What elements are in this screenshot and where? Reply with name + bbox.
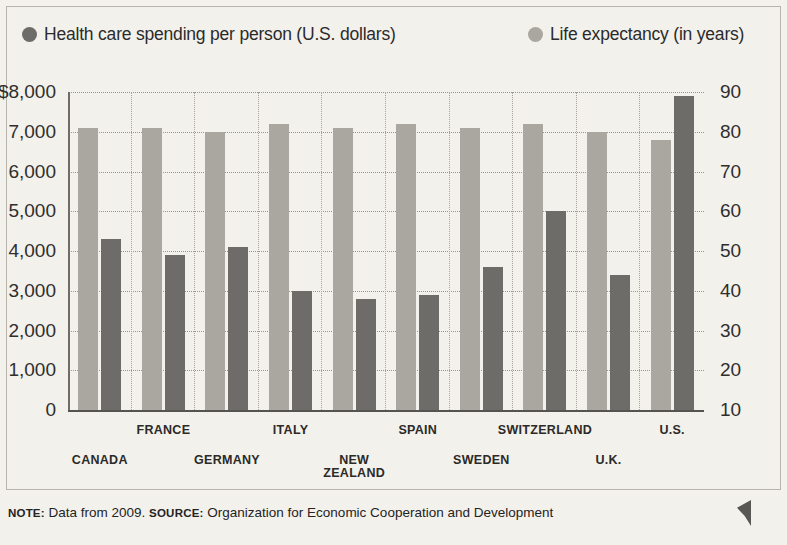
x-axis-category-label: SPAIN [398,424,437,437]
y-axis-right-tick: 40 [720,280,741,302]
bar-spending [292,291,312,410]
bar-spending [674,96,694,410]
y-axis-right-tick: 60 [720,200,741,222]
y-axis-left-tick: 1,000 [8,359,56,381]
y-axis-right-tick: 30 [720,320,741,342]
bar-group [577,92,641,410]
legend-swatch-spending [22,27,37,42]
x-axis-category-labels: CANADAFRANCEGERMANYITALYNEW ZEALANDSPAIN… [68,418,704,484]
footnote-source-text: Organization for Economic Cooperation an… [204,505,554,520]
y-axis-right-tick: 10 [720,399,741,421]
x-axis-label-cell: NEW ZEALAND [322,418,386,484]
y-axis-left-tick: 3,000 [8,280,56,302]
legend-swatch-life-expectancy [528,27,543,42]
footnote-note-lead: NOTE: [8,507,45,519]
legend-label-spending: Health care spending per person (U.S. do… [44,24,396,45]
x-axis-category-label: CANADA [72,454,128,467]
bar-life-expectancy [460,128,480,410]
y-axis-right-tick: 50 [720,240,741,262]
bar-life-expectancy [587,132,607,410]
bar-group [640,92,704,410]
bar-spending [419,295,439,410]
bar-group [68,92,132,410]
y-axis-right-tick: 20 [720,359,741,381]
bar-group [386,92,450,410]
y-axis-left-tick: 5,000 [8,200,56,222]
y-axis-right-tick: 90 [720,81,741,103]
x-axis-label-cell: FRANCE [132,418,196,484]
footnote-source-lead: SOURCE: [149,507,203,519]
bar-group [195,92,259,410]
bar-spending [546,211,566,410]
x-axis-label-cell: SWITZERLAND [513,418,577,484]
bar-group [259,92,323,410]
y-axis-right-tick: 80 [720,121,741,143]
bar-life-expectancy [142,128,162,410]
bar-group [513,92,577,410]
x-axis-category-label: U.K. [595,454,621,467]
x-axis-category-label: SWEDEN [453,454,510,467]
bar-life-expectancy [651,140,671,410]
x-axis-label-cell: GERMANY [195,418,259,484]
y-axis-left-tick: 0 [45,399,56,421]
y-axis-left-tick: 7,000 [8,121,56,143]
x-axis-category-label: GERMANY [194,454,260,467]
legend-item-spending: Health care spending per person (U.S. do… [22,24,396,45]
y-axis-left-tick: $8,000 [0,81,56,103]
x-axis-label-cell: U.S. [640,418,704,484]
x-axis-label-cell: U.K. [577,418,641,484]
legend-item-life-expectancy: Life expectancy (in years) [528,24,744,45]
bar-life-expectancy [269,124,289,410]
bar-life-expectancy [396,124,416,410]
bar-spending [228,247,248,410]
x-axis-label-cell: ITALY [259,418,323,484]
bar-life-expectancy [205,132,225,410]
bar-group [322,92,386,410]
x-axis-label-cell: SPAIN [386,418,450,484]
x-axis-line [68,410,704,412]
x-axis-category-label: U.S. [659,424,685,437]
bar-life-expectancy [333,128,353,410]
chart-legend: Health care spending per person (U.S. do… [22,24,767,58]
y-axis-left-tick: 4,000 [8,240,56,262]
bar-spending [610,275,630,410]
y-axis-left-labels: $8,0007,0006,0005,0004,0003,0002,0001,00… [0,92,62,410]
page-corner-mark [737,500,751,526]
footnote-note-text: Data from 2009. [45,505,146,520]
bar-spending [356,299,376,410]
bar-spending [165,255,185,410]
chart-footnote: NOTE: Data from 2009. SOURCE: Organizati… [8,505,708,520]
y-axis-left-tick: 6,000 [8,161,56,183]
y-axis-right-tick: 70 [720,161,741,183]
bar-group [450,92,514,410]
bar-group [132,92,196,410]
bar-spending [101,239,121,410]
bar-spending [483,267,503,410]
x-axis-category-label: ITALY [273,424,309,437]
x-axis-label-cell: CANADA [68,418,132,484]
bar-groups [68,92,704,410]
x-axis-category-label: FRANCE [136,424,190,437]
y-axis-left-tick: 2,000 [8,320,56,342]
bar-life-expectancy [523,124,543,410]
plot-area [68,92,704,410]
x-axis-category-label: NEW ZEALAND [323,454,385,480]
y-axis-right-labels: 908070605040302010 [712,92,776,410]
chart-card: Health care spending per person (U.S. do… [0,0,787,545]
legend-label-life-expectancy: Life expectancy (in years) [550,24,744,45]
bar-life-expectancy [78,128,98,410]
